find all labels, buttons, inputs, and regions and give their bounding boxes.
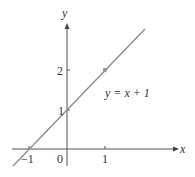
tick-label-x-minus1: −1 <box>21 153 34 165</box>
x-axis-arrow-icon <box>173 147 179 152</box>
tick-label-y-2: 2 <box>57 65 63 77</box>
tick-label-x-1: 1 <box>102 153 108 165</box>
y-axis-arrow-icon <box>65 23 70 29</box>
equation-label: y = x + 1 <box>105 87 150 99</box>
x-axis-label: x <box>180 143 185 155</box>
y-axis-label: y <box>62 7 67 19</box>
plot-area <box>0 0 195 177</box>
tick-label-x-0: 0 <box>57 153 63 165</box>
tick-label-y-1: 1 <box>58 105 64 117</box>
point-1-2 <box>103 68 108 73</box>
